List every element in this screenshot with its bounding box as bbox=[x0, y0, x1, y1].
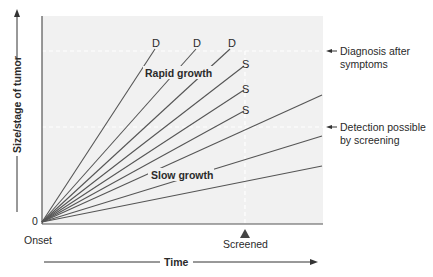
onset-label: Onset bbox=[24, 234, 52, 246]
origin-label: 0 bbox=[32, 215, 38, 227]
plot-area bbox=[42, 16, 323, 224]
y-arrow-head-icon bbox=[14, 9, 20, 17]
rapid-growth-label: Rapid growth bbox=[145, 67, 212, 79]
line-end-label-s2: S bbox=[242, 83, 249, 95]
line-end-label-s3: S bbox=[242, 104, 249, 116]
line-end-label-d1: D bbox=[152, 37, 160, 49]
screening-threshold-label-line2: by screening bbox=[340, 134, 400, 146]
slow-growth-label: Slow growth bbox=[151, 169, 213, 181]
time-arrow-head-icon bbox=[310, 259, 318, 265]
line-end-label-d2: D bbox=[193, 37, 201, 49]
screened-marker-icon bbox=[240, 229, 250, 238]
diagnosis-threshold-label-line1: Diagnosis after bbox=[340, 45, 411, 57]
line-end-label-s1: S bbox=[242, 58, 249, 70]
y-axis-label: Size/stage of tumor bbox=[11, 56, 23, 153]
tumor-growth-diagram: D D D S S S Rapid growth Slow growth 0 O… bbox=[0, 0, 433, 277]
screening-threshold-label-line1: Detection possible bbox=[340, 121, 426, 133]
line-end-label-d3: D bbox=[228, 37, 236, 49]
time-axis-label: Time bbox=[164, 256, 188, 268]
diagnosis-threshold-label-line2: symptoms bbox=[340, 58, 388, 70]
screened-label: Screened bbox=[223, 238, 268, 250]
